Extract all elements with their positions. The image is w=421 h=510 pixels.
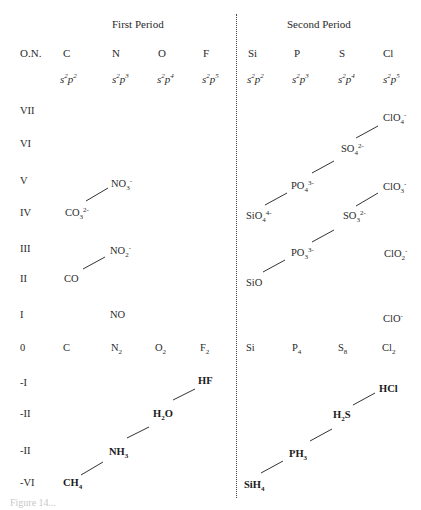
species-ClO2-minus: ClO2- bbox=[384, 248, 407, 259]
species-ClO-minus: ClO- bbox=[383, 313, 403, 324]
species-connector-lines bbox=[0, 0, 421, 510]
species-CO3-2minus: CO32- bbox=[65, 207, 89, 218]
species-H2S: H2S bbox=[333, 409, 351, 420]
species-CO: CO bbox=[64, 273, 79, 284]
species-PO3-3minus: PO33- bbox=[291, 247, 314, 258]
species-SO3-2minus: SO32- bbox=[343, 210, 366, 221]
species-O2: O2 bbox=[155, 342, 166, 353]
species-NO2-minus: NO2- bbox=[110, 245, 131, 256]
species-F2: F2 bbox=[200, 342, 209, 353]
figure-caption: Figure 14... bbox=[10, 497, 56, 508]
species-N2: N2 bbox=[111, 342, 122, 353]
species-Si: Si bbox=[246, 342, 255, 353]
species-C: C bbox=[63, 342, 70, 353]
species-SO4-2minus: SO42- bbox=[341, 143, 364, 154]
species-NH3: NH3 bbox=[109, 446, 128, 457]
species-NO3-minus: NO3- bbox=[111, 178, 132, 189]
species-SiO: SiO bbox=[246, 277, 262, 288]
species-SiO4-4minus: SiO44- bbox=[246, 210, 272, 221]
species-ClO4-minus: ClO4- bbox=[383, 112, 406, 123]
species-PO4-3minus: PO43- bbox=[291, 180, 314, 191]
species-PH3: PH3 bbox=[289, 448, 307, 459]
species-Cl2: Cl2 bbox=[382, 342, 395, 353]
species-ClO3-minus: ClO3- bbox=[383, 181, 406, 192]
species-S8: S8 bbox=[338, 342, 347, 353]
species-HCl: HCl bbox=[379, 383, 398, 394]
species-SiH4: SiH4 bbox=[244, 479, 264, 490]
species-CH4: CH4 bbox=[63, 477, 82, 488]
species-P4: P4 bbox=[292, 342, 301, 353]
species-HF: HF bbox=[198, 375, 213, 386]
species-H2O: H2O bbox=[153, 408, 173, 419]
species-NO: NO bbox=[110, 309, 125, 320]
